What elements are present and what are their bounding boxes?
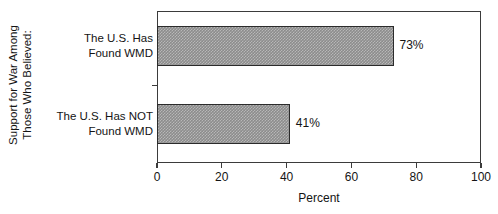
bar-wmd-not-found [157,104,290,144]
category-label-wmd-found: The U.S. Has Found WMD [38,31,153,60]
bar-value-label-wmd-found: 73% [400,38,424,52]
category-label-line-2: Found WMD [38,124,153,139]
x-axis-tick [351,163,352,168]
category-label-line-1: The U.S. Has [84,32,153,44]
category-label-line-1: The U.S. Has NOT [57,110,154,122]
x-axis-tick-label: 20 [215,170,228,184]
y-axis-inner-tick [152,85,158,86]
x-axis-tick [416,163,417,168]
x-axis-tick [480,163,481,168]
x-axis-tick-label: 40 [280,170,293,184]
x-axis-tick [286,163,287,168]
bar-chart: Support for War Among Those Who Believed… [0,0,498,214]
x-axis-tick-label: 60 [345,170,358,184]
x-axis-tick [156,163,157,168]
x-axis-tick [221,163,222,168]
category-label-line-2: Found WMD [38,46,153,61]
x-axis-tick-label: 100 [471,170,491,184]
y-axis-title-line-1: Support for War Among [7,25,19,145]
x-axis-tick-label: 0 [154,170,161,184]
y-axis-title-line-2: Those Who Believed: [20,25,34,145]
x-axis-title: Percent [157,191,481,205]
bar-value-label-wmd-not-found: 41% [296,116,320,130]
x-axis-tick-label: 80 [410,170,423,184]
category-label-wmd-not-found: The U.S. Has NOT Found WMD [38,109,153,138]
bar-wmd-found [157,26,394,66]
y-axis-title: Support for War Among Those Who Believed… [0,0,40,170]
